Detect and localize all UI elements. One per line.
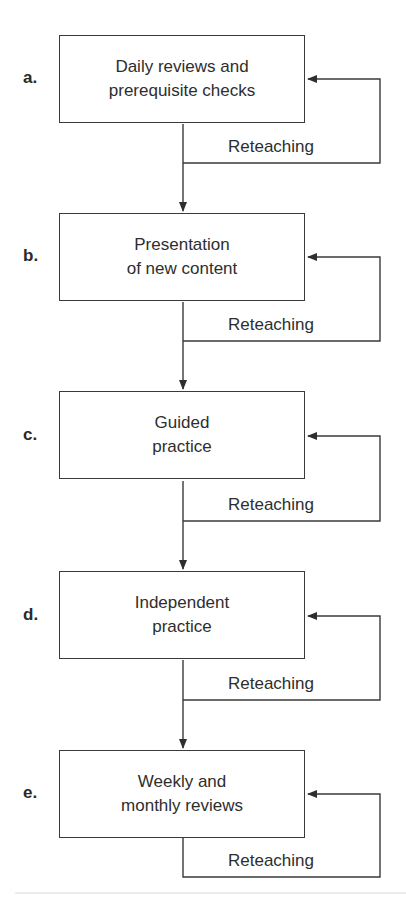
reteaching-label-d: Reteaching (228, 674, 314, 694)
step-text-line2: monthly reviews (121, 794, 243, 818)
step-label-e: e. (23, 783, 37, 803)
step-text-line1: Independent (135, 591, 230, 615)
reteaching-label-c: Reteaching (228, 495, 314, 515)
step-label-a: a. (23, 68, 37, 88)
step-text-line2: of new content (127, 257, 238, 281)
step-label-b: b. (23, 246, 38, 266)
reteaching-label-a: Reteaching (228, 137, 314, 157)
step-label-c: c. (23, 425, 37, 445)
step-box-presentation: Presentation of new content (59, 213, 305, 301)
step-text-line1: Guided (152, 411, 212, 435)
step-text-line2: practice (135, 615, 230, 639)
step-box-daily-reviews: Daily reviews and prerequisite checks (59, 35, 305, 123)
step-text-line2: practice (152, 435, 212, 459)
reteaching-label-b: Reteaching (228, 315, 314, 335)
step-text-line1: Weekly and (121, 770, 243, 794)
step-label-d: d. (23, 605, 38, 625)
step-text-line1: Presentation (127, 233, 238, 257)
step-box-weekly-monthly-reviews: Weekly and monthly reviews (59, 750, 305, 838)
reteaching-label-e: Reteaching (228, 851, 314, 871)
step-text-line1: Daily reviews and (109, 55, 255, 79)
step-box-guided-practice: Guided practice (59, 391, 305, 479)
step-text-line2: prerequisite checks (109, 79, 255, 103)
step-box-independent-practice: Independent practice (59, 571, 305, 659)
